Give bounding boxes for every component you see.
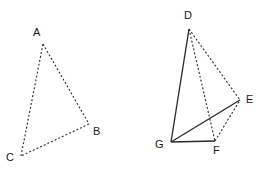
vertex-label-b: B <box>93 126 100 137</box>
edge-gf <box>171 141 215 142</box>
geometry-diagram-canvas: A B C D E F G <box>0 0 265 173</box>
edge-ca <box>21 44 43 156</box>
vertex-label-d: D <box>184 10 192 21</box>
vertex-label-a: A <box>33 27 40 38</box>
edge-de <box>189 29 240 100</box>
triangle-abc <box>21 44 89 156</box>
tetrahedron-defg <box>171 29 240 142</box>
edge-dg <box>171 29 189 142</box>
vertex-label-g: G <box>155 139 164 150</box>
edge-ab <box>43 44 89 124</box>
edge-bc <box>21 124 89 156</box>
vertex-label-c: C <box>6 152 14 163</box>
edge-df <box>189 29 215 141</box>
vertex-label-e: E <box>246 94 253 105</box>
vertex-label-f: F <box>213 145 220 156</box>
edge-ge <box>171 100 240 142</box>
edge-fe <box>215 100 240 141</box>
